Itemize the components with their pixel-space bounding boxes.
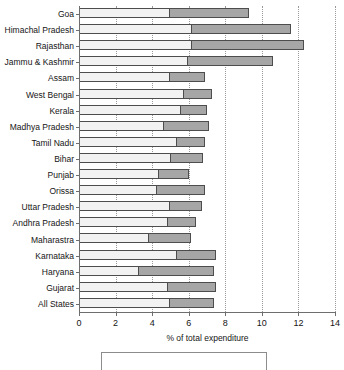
y-axis-tick xyxy=(76,111,79,112)
y-axis-tick xyxy=(76,143,79,144)
bar-segment-light xyxy=(80,122,164,130)
bar-segment-dark xyxy=(180,106,206,114)
x-axis-tick xyxy=(79,312,80,316)
y-axis-tick xyxy=(76,207,79,208)
stacked-bar xyxy=(79,8,249,18)
bar-segment-dark xyxy=(158,170,188,178)
y-axis-tick-label: Tamil Nadu xyxy=(0,138,74,148)
y-axis-tick xyxy=(76,78,79,79)
bar-segment-dark xyxy=(163,122,208,130)
y-axis-tick xyxy=(76,14,79,15)
stacked-bar xyxy=(79,72,205,82)
x-axis-tick xyxy=(262,312,263,316)
bar-segment-light xyxy=(80,170,159,178)
stacked-bar xyxy=(79,217,196,227)
bar-segment-dark xyxy=(148,234,189,242)
y-axis-tick xyxy=(76,46,79,47)
plot-area xyxy=(79,6,335,312)
bar-segment-light xyxy=(80,202,170,210)
bar-segment-light xyxy=(80,267,139,275)
bar-row xyxy=(79,215,335,229)
bar-segment-light xyxy=(80,106,181,114)
y-axis-tick-label: Gujarat xyxy=(0,283,74,293)
stacked-bar xyxy=(79,282,216,292)
bar-row xyxy=(79,167,335,181)
bar-row xyxy=(79,22,335,36)
y-axis-spine xyxy=(79,6,80,312)
bar-row xyxy=(79,248,335,262)
y-axis-tick-label: Maharastra xyxy=(0,235,74,245)
stacked-bar xyxy=(79,137,205,147)
y-axis-tick xyxy=(76,159,79,160)
x-axis-tick-label: 0 xyxy=(67,318,91,328)
bar-segment-light xyxy=(80,25,192,33)
bar-segment-light xyxy=(80,138,177,146)
y-axis-tick-label: West Bengal xyxy=(0,90,74,100)
bar-segment-dark xyxy=(169,202,201,210)
y-axis-tick-label: Punjab xyxy=(0,170,74,180)
bar-row xyxy=(79,231,335,245)
bar-segment-dark xyxy=(176,251,215,259)
x-axis-tick xyxy=(298,312,299,316)
x-axis-tick-label: 6 xyxy=(177,318,201,328)
bar-row xyxy=(79,6,335,20)
bar-segment-dark xyxy=(191,25,291,33)
gridline xyxy=(335,6,336,312)
bar-segment-light xyxy=(80,90,184,98)
stacked-bar xyxy=(79,89,212,99)
y-axis-tick xyxy=(76,191,79,192)
y-axis-tick-label: All States xyxy=(0,299,74,309)
y-axis-tick-label: Karnataka xyxy=(0,251,74,261)
y-axis-tick-label: Uttar Pradesh xyxy=(0,202,74,212)
y-axis-tick-label: Jammu & Kashmir xyxy=(0,57,74,67)
bar-segment-dark xyxy=(138,267,214,275)
x-axis-tick xyxy=(335,312,336,316)
y-axis-tick xyxy=(76,30,79,31)
bar-row xyxy=(79,280,335,294)
y-axis-tick-label: Bihar xyxy=(0,154,74,164)
y-axis-tick xyxy=(76,175,79,176)
x-axis-tick xyxy=(189,312,190,316)
stacked-bar xyxy=(79,201,202,211)
bar-segment-dark xyxy=(183,90,211,98)
y-axis-tick-label: Goa xyxy=(0,9,74,19)
bar-segment-light xyxy=(80,234,149,242)
bar-segment-light xyxy=(80,73,170,81)
bar-row xyxy=(79,54,335,68)
stacked-bar xyxy=(79,56,273,66)
stacked-bar xyxy=(79,298,214,308)
y-axis-tick xyxy=(76,240,79,241)
bar-segment-dark xyxy=(169,73,205,81)
bar-segment-light xyxy=(80,251,177,259)
y-axis-tick xyxy=(76,62,79,63)
y-axis-tick-label: Himachal Pradesh xyxy=(0,25,74,35)
y-axis-tick xyxy=(76,223,79,224)
x-axis-tick-label: 14 xyxy=(323,318,344,328)
bar-segment-dark xyxy=(156,186,204,194)
bar-segment-dark xyxy=(191,41,303,49)
stacked-bar xyxy=(79,40,304,50)
y-axis-tick xyxy=(76,272,79,273)
y-axis-tick-label: Madhya Pradesh xyxy=(0,122,74,132)
legend-box xyxy=(101,352,267,370)
y-axis-tick xyxy=(76,95,79,96)
bar-segment-dark xyxy=(169,9,248,17)
bar-segment-light xyxy=(80,41,192,49)
y-axis-tick xyxy=(76,127,79,128)
stacked-bar xyxy=(79,233,191,243)
x-axis-tick-label: 10 xyxy=(250,318,274,328)
y-axis-tick xyxy=(76,304,79,305)
x-axis-tick xyxy=(116,312,117,316)
bar-row xyxy=(79,38,335,52)
bar-row xyxy=(79,296,335,310)
x-axis-tick-label: 12 xyxy=(286,318,310,328)
stacked-bar xyxy=(79,250,216,260)
bar-segment-light xyxy=(80,154,171,162)
bar-segment-dark xyxy=(169,299,214,307)
x-axis-title: % of total expenditure xyxy=(79,333,336,343)
bar-segment-dark xyxy=(187,57,272,65)
x-axis-tick xyxy=(152,312,153,316)
bar-row xyxy=(79,151,335,165)
bar-row xyxy=(79,70,335,84)
